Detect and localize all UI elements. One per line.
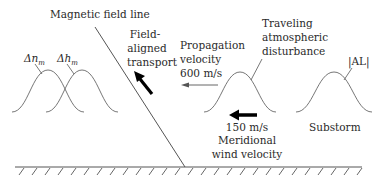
- field-aligned-line-2: aligned: [112, 41, 182, 55]
- diagram-canvas: Magnetic field line Field- aligned trans…: [0, 0, 383, 185]
- propagation-line-1: Propagation: [180, 38, 245, 52]
- wind-line-2: wind velocity: [200, 147, 294, 161]
- al-label: |AL|: [348, 54, 370, 68]
- dh-curve: [46, 70, 118, 112]
- wind-arrow-icon: [229, 110, 257, 121]
- substorm-curve: [296, 72, 372, 112]
- field-aligned-arrow-icon: [134, 71, 152, 94]
- dn-symbol: Δn: [24, 52, 38, 64]
- dh-label: Δhm: [57, 51, 78, 70]
- tad-line-1: Traveling: [262, 16, 328, 30]
- tad-line-3: disturbance: [262, 44, 328, 58]
- tad-label: Traveling atmospheric disturbance: [262, 16, 328, 58]
- dn-label: Δnm: [24, 51, 45, 70]
- dh-subscript: m: [71, 59, 78, 67]
- propagation-line-3: 600 m/s: [180, 66, 245, 80]
- substorm-label: Substorm: [309, 120, 361, 134]
- dn-curve: [12, 70, 84, 112]
- tad-leader: [251, 59, 262, 80]
- dn-subscript: m: [38, 59, 45, 67]
- wind-line-1: Meridional: [200, 133, 294, 147]
- propagation-arrow-icon: [181, 83, 218, 88]
- magnetic-field-line-label: Magnetic field line: [50, 7, 150, 21]
- dh-symbol: Δh: [57, 52, 71, 64]
- propagation-line-2: velocity: [180, 52, 245, 66]
- field-aligned-transport-label: Field- aligned transport: [112, 27, 182, 69]
- wind-speed-label: 150 m/s: [212, 120, 282, 134]
- meridional-wind-label: Meridional wind velocity: [200, 133, 294, 161]
- tad-line-2: atmospheric: [262, 30, 328, 44]
- al-leader: [344, 68, 352, 80]
- ground-hatching: [19, 168, 362, 175]
- propagation-velocity-label: Propagation velocity 600 m/s: [180, 38, 245, 80]
- field-aligned-line-3: transport: [122, 55, 182, 69]
- field-aligned-line-1: Field-: [108, 27, 182, 41]
